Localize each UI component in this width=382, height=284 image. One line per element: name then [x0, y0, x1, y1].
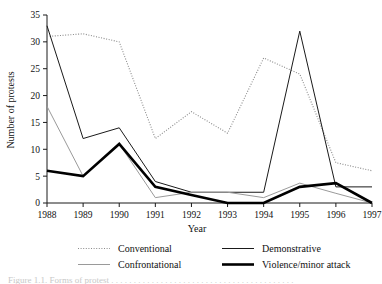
series-line-confrontational — [47, 106, 372, 203]
y-tick-label: 35 — [31, 10, 41, 20]
series-line-violence-minor-attack — [47, 144, 372, 203]
x-tick-label: 1993 — [218, 210, 237, 220]
series-line-demonstrative — [47, 26, 372, 193]
figure-caption-partial: Figure 1.1. Forms of protest . . . . . .… — [8, 275, 374, 284]
x-tick-label: 1990 — [110, 210, 129, 220]
line-chart-svg: 05101520253035 1988198919901991199219931… — [0, 0, 382, 284]
y-tick-label: 5 — [35, 172, 40, 182]
x-tick-label: 1988 — [38, 210, 57, 220]
x-tick-label: 1991 — [146, 210, 165, 220]
y-tick-label: 10 — [31, 145, 41, 155]
x-tick-label: 1992 — [182, 210, 201, 220]
legend-label-violence-minor-attack: Violence/minor attack — [262, 259, 351, 270]
legend-label-confrontational: Confrontational — [118, 259, 182, 270]
y-tick-label: 0 — [35, 198, 40, 208]
x-tick-label: 1996 — [326, 210, 345, 220]
legend-label-demonstrative: Demonstrative — [262, 243, 321, 254]
legend-label-conventional: Conventional — [118, 243, 172, 254]
y-axis: 05101520253035 — [31, 10, 48, 208]
figure-container: 05101520253035 1988198919901991199219931… — [0, 0, 382, 284]
x-tick-label: 1995 — [290, 210, 309, 220]
chart-plot-area: 05101520253035 1988198919901991199219931… — [0, 0, 382, 284]
y-tick-label: 15 — [31, 118, 41, 128]
x-axis-title: Year — [188, 223, 207, 234]
x-tick-label: 1994 — [254, 210, 273, 220]
chart-legend: ConventionalDemonstrativeConfrontational… — [78, 243, 351, 270]
y-tick-label: 20 — [31, 91, 41, 101]
y-tick-label: 30 — [31, 37, 41, 47]
x-axis: 1988198919901991199219931994199519961997 — [38, 203, 382, 220]
series-line-conventional — [47, 34, 372, 171]
y-axis-title: Number of protests — [5, 71, 16, 148]
series-group — [47, 26, 372, 203]
x-tick-label: 1997 — [363, 210, 382, 220]
y-tick-label: 25 — [31, 64, 41, 74]
x-tick-label: 1989 — [74, 210, 93, 220]
